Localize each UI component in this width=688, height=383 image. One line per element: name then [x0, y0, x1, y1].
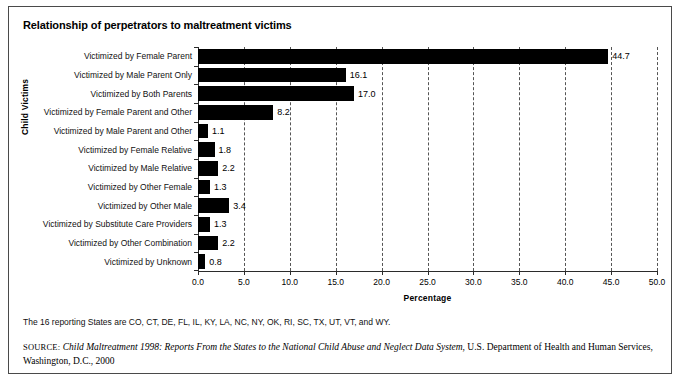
category-label: Victimized by Male Relative — [88, 163, 192, 173]
category-label: Victimized by Male Parent and Other — [54, 126, 192, 136]
bar-value-label: 1.8 — [215, 145, 232, 155]
bar[interactable] — [198, 254, 205, 269]
x-tick — [611, 271, 612, 275]
x-tick-label: 45.0 — [603, 277, 620, 287]
x-tick — [336, 271, 337, 275]
x-tick-label: 20.0 — [373, 277, 390, 287]
x-tick — [290, 271, 291, 275]
bar-row[interactable]: Victimized by Female Relative1.8 — [198, 140, 657, 159]
y-tick — [194, 252, 198, 253]
bar-value-label: 1.3 — [210, 219, 227, 229]
bar[interactable] — [198, 86, 354, 101]
category-label: Victimized by Other Female — [88, 182, 192, 192]
source-label: SOURCE: — [23, 342, 60, 352]
x-tick-label: 30.0 — [465, 277, 482, 287]
bars-layer: Victimized by Female Parent44.7Victimize… — [198, 47, 657, 271]
plot-region: Victimized by Female Parent44.7Victimize… — [198, 47, 657, 271]
x-tick — [244, 271, 245, 275]
x-tick — [565, 271, 566, 275]
category-label: Victimized by Male Parent Only — [74, 70, 192, 80]
x-tick-label: 35.0 — [511, 277, 528, 287]
category-label: Victimized by Other Male — [98, 201, 192, 211]
bar-row[interactable]: Victimized by Male Relative2.2 — [198, 159, 657, 178]
bar[interactable] — [198, 124, 208, 139]
bar[interactable] — [198, 142, 215, 157]
category-label: Victimized by Both Parents — [91, 89, 192, 99]
y-tick — [194, 215, 198, 216]
y-tick — [194, 178, 198, 179]
y-tick — [194, 47, 198, 48]
source-title: Child Maltreatment 1998: Reports From th… — [63, 342, 463, 352]
bar[interactable] — [198, 105, 273, 120]
x-tick-label: 10.0 — [282, 277, 299, 287]
category-label: Victimized by Substitute Care Providers — [43, 219, 192, 229]
bar-row[interactable]: Victimized by Other Combination2.2 — [198, 234, 657, 253]
x-tick-label: 40.0 — [557, 277, 574, 287]
x-tick — [382, 271, 383, 275]
bar-value-label: 0.8 — [205, 257, 222, 267]
bar-value-label: 16.1 — [346, 70, 368, 80]
footnote: The 16 reporting States are CO, CT, DE, … — [23, 317, 390, 327]
y-tick — [194, 159, 198, 160]
bar[interactable] — [198, 49, 608, 64]
bar[interactable] — [198, 198, 229, 213]
x-tick — [428, 271, 429, 275]
x-axis-title: Percentage — [198, 293, 657, 303]
source-citation: SOURCE: Child Maltreatment 1998: Reports… — [23, 341, 657, 369]
category-label: Victimized by Other Combination — [68, 238, 192, 248]
gridline-50.0 — [657, 47, 658, 271]
bar-row[interactable]: Victimized by Male Parent Only16.1 — [198, 66, 657, 85]
y-tick — [194, 196, 198, 197]
x-tick-label: 15.0 — [327, 277, 344, 287]
bar-value-label: 2.2 — [218, 163, 235, 173]
category-label: Victimized by Female Parent — [84, 51, 192, 61]
bar-value-label: 1.3 — [210, 182, 227, 192]
x-tick — [198, 271, 199, 275]
y-tick — [194, 234, 198, 235]
bar-row[interactable]: Victimized by Both Parents17.0 — [198, 84, 657, 103]
bar[interactable] — [198, 161, 218, 176]
bar[interactable] — [198, 68, 346, 83]
figure-frame: Relationship of perpetrators to maltreat… — [8, 6, 672, 374]
bar-row[interactable]: Victimized by Other Female1.3 — [198, 178, 657, 197]
y-tick — [194, 140, 198, 141]
bar-value-label: 1.1 — [208, 126, 225, 136]
y-tick — [194, 103, 198, 104]
x-tick-label: 25.0 — [419, 277, 436, 287]
category-label: Victimized by Female Relative — [78, 145, 192, 155]
bar-value-label: 3.4 — [229, 201, 246, 211]
x-tick-label: 50.0 — [649, 277, 666, 287]
y-tick — [194, 84, 198, 85]
bar-row[interactable]: Victimized by Female Parent44.7 — [198, 47, 657, 66]
bar-row[interactable]: Victimized by Male Parent and Other1.1 — [198, 122, 657, 141]
bar-value-label: 17.0 — [354, 89, 376, 99]
x-tick — [519, 271, 520, 275]
chart-title: Relationship of perpetrators to maltreat… — [23, 19, 292, 31]
bar-value-label: 8.2 — [273, 107, 290, 117]
y-tick — [194, 122, 198, 123]
bar-row[interactable]: Victimized by Female Parent and Other8.2 — [198, 103, 657, 122]
bar-row[interactable]: Victimized by Unknown0.8 — [198, 252, 657, 271]
y-axis-title: Child Victims — [20, 79, 30, 135]
bar[interactable] — [198, 217, 210, 232]
y-tick — [194, 66, 198, 67]
x-tick — [657, 271, 658, 275]
x-tick — [473, 271, 474, 275]
bar[interactable] — [198, 236, 218, 251]
category-label: Victimized by Female Parent and Other — [44, 107, 192, 117]
bar-row[interactable]: Victimized by Substitute Care Providers1… — [198, 215, 657, 234]
category-label: Victimized by Unknown — [104, 257, 192, 267]
bar-value-label: 2.2 — [218, 238, 235, 248]
bar[interactable] — [198, 180, 210, 195]
bar-row[interactable]: Victimized by Other Male3.4 — [198, 196, 657, 215]
x-tick-label: 5.0 — [238, 277, 250, 287]
bar-value-label: 44.7 — [608, 51, 630, 61]
x-tick-label: 0.0 — [192, 277, 204, 287]
